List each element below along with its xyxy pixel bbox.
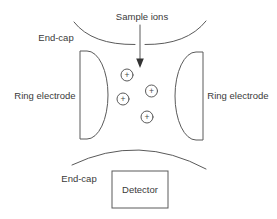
end-cap-bottom-label: End-cap bbox=[61, 173, 96, 184]
ion-symbol: + bbox=[121, 69, 133, 81]
plus-icon: + bbox=[121, 94, 126, 104]
ion-symbol: + bbox=[117, 93, 129, 105]
end-cap-top-label: End-cap bbox=[38, 32, 73, 43]
ring-electrode-left-shape bbox=[80, 51, 108, 139]
ring-electrode-right-label: Ring electrode bbox=[207, 90, 268, 101]
detector-label: Detector bbox=[122, 184, 158, 195]
ring-electrode-left-label: Ring electrode bbox=[14, 90, 75, 101]
plus-icon: + bbox=[145, 112, 150, 122]
end-cap-top-right-arc bbox=[145, 21, 206, 45]
ring-electrode-right-shape bbox=[175, 52, 203, 140]
plus-icon: + bbox=[149, 86, 154, 96]
diagram-svg: Sample ions End-cap Ring electrode Ring … bbox=[0, 0, 277, 219]
end-cap-top-left-arc bbox=[74, 22, 135, 45]
down-arrowhead-icon bbox=[136, 59, 144, 69]
end-cap-bottom-arc bbox=[72, 150, 206, 169]
ion-trap-diagram: Sample ions End-cap Ring electrode Ring … bbox=[0, 0, 277, 219]
ion-symbol: + bbox=[146, 85, 158, 97]
ion-symbol: + bbox=[141, 111, 153, 123]
plus-icon: + bbox=[125, 70, 130, 80]
sample-ions-label: Sample ions bbox=[116, 11, 169, 22]
